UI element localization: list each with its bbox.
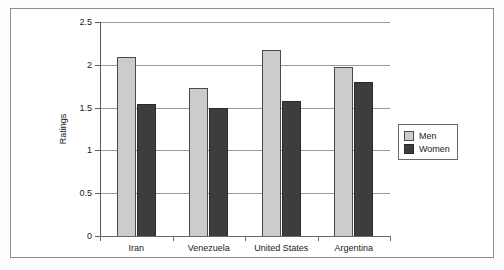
bar-women-venezuela[interactable] [209,108,228,236]
chart-legend: MenWomen [398,124,458,160]
x-tick-mark [318,236,319,241]
bar-women-iran[interactable] [137,104,156,236]
x-tick-mark [173,236,174,241]
y-tick-label: 2 [87,60,92,70]
bars-container [100,22,390,236]
legend-swatch-women [404,144,414,154]
x-axis-label-iran: Iran [128,243,144,253]
y-tick-mark [95,65,100,66]
x-axis-label-venezuela: Venezuela [188,243,230,253]
bar-women-argentina[interactable] [354,82,373,236]
y-tick-label: 1.5 [79,103,92,113]
bar-group [100,22,173,236]
bar-men-united-states[interactable] [262,50,281,236]
y-tick-label: 1 [87,145,92,155]
legend-item-men[interactable]: Men [404,129,450,142]
bar-men-venezuela[interactable] [189,88,208,236]
bar-men-iran[interactable] [117,57,136,236]
x-axis-label-united-states: United States [254,243,308,253]
legend-label: Women [419,144,450,154]
y-tick-label: 0 [87,231,92,241]
chart-figure: Ratings 00.511.522.5 IranVenezuelaUnited… [0,0,504,270]
bar-men-argentina[interactable] [334,67,353,236]
x-axis-label-argentina: Argentina [334,243,373,253]
y-tick-mark [95,22,100,23]
bar-group [245,22,318,236]
y-tick-label: 2.5 [79,17,92,27]
legend-label: Men [419,131,437,141]
y-tick-label: 0.5 [79,188,92,198]
y-tick-mark [95,108,100,109]
y-axis-title: Ratings [58,114,68,145]
x-tick-mark [390,236,391,241]
y-tick-mark [95,150,100,151]
y-tick-mark [95,193,100,194]
legend-item-women[interactable]: Women [404,142,450,155]
x-tick-mark [100,236,101,241]
legend-swatch-men [404,131,414,141]
bar-group [318,22,391,236]
plot-area: 00.511.522.5 [100,22,390,236]
x-tick-mark [245,236,246,241]
bar-group [173,22,246,236]
bar-women-united-states[interactable] [282,101,301,236]
